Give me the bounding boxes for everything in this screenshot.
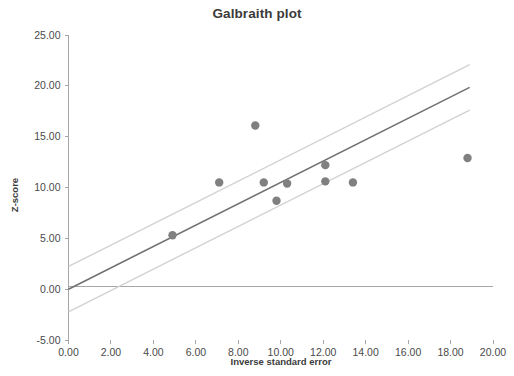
y-tick-label: 5.00 bbox=[40, 232, 61, 244]
galbraith-plot-figure: Galbraith plot 25.0020.0015.0010.005.000… bbox=[0, 0, 514, 376]
y-tick-label: 10.00 bbox=[34, 181, 60, 193]
x-axis-group: 0.002.004.006.008.0010.0012.0014.0016.00… bbox=[58, 287, 506, 368]
y-tick-label: 0.00 bbox=[40, 283, 61, 295]
x-tick-label: 20.00 bbox=[480, 346, 506, 358]
data-points-group bbox=[168, 121, 471, 239]
y-tick-label: -5.00 bbox=[37, 334, 61, 346]
data-point-marker bbox=[260, 178, 268, 186]
data-point-marker bbox=[168, 231, 176, 239]
y-tick-label: 20.00 bbox=[34, 79, 60, 91]
data-point-marker bbox=[463, 154, 471, 162]
regression-line bbox=[69, 87, 470, 289]
data-point-marker bbox=[272, 197, 280, 205]
y-axis-title: Z-score bbox=[9, 178, 20, 212]
data-point-marker bbox=[349, 178, 357, 186]
data-point-marker bbox=[283, 179, 291, 187]
x-tick-label: 16.00 bbox=[395, 346, 421, 358]
x-axis-ticks bbox=[69, 340, 494, 344]
y-tick-label: 15.00 bbox=[34, 130, 60, 142]
data-point-marker bbox=[321, 161, 329, 169]
y-axis-tick-labels: 25.0020.0015.0010.005.000.00-5.00 bbox=[34, 29, 60, 346]
x-tick-label: 4.00 bbox=[143, 346, 164, 358]
lower-confidence-bound-line bbox=[69, 110, 470, 312]
x-tick-label: 14.00 bbox=[353, 346, 379, 358]
y-tick-label: 25.00 bbox=[34, 29, 60, 41]
data-point-marker bbox=[321, 177, 329, 185]
x-tick-label: 6.00 bbox=[186, 346, 207, 358]
x-tick-label: 2.00 bbox=[101, 346, 122, 358]
y-axis-ticks bbox=[65, 35, 69, 340]
upper-confidence-bound-line bbox=[69, 65, 470, 267]
y-axis-group: 25.0020.0015.0010.005.000.00-5.00 Z-scor… bbox=[9, 29, 69, 346]
x-tick-label: 18.00 bbox=[437, 346, 463, 358]
data-point-marker bbox=[251, 121, 259, 129]
trend-lines-group bbox=[69, 65, 470, 312]
data-point-marker bbox=[215, 178, 223, 186]
plot-canvas: 25.0020.0015.0010.005.000.00-5.00 Z-scor… bbox=[0, 0, 514, 376]
x-axis-title: Inverse standard error bbox=[231, 356, 332, 367]
x-tick-label: 0.00 bbox=[58, 346, 79, 358]
